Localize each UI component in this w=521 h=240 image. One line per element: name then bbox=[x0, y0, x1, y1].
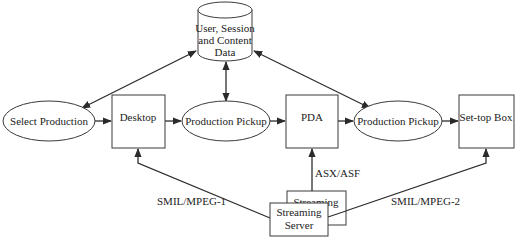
node-pda: PDA bbox=[286, 95, 338, 148]
database-label-line-1: User, Session bbox=[195, 22, 255, 34]
node-settop-box: Set-top Box bbox=[459, 95, 514, 148]
select-production-label: Select Production bbox=[10, 115, 88, 127]
edge-label-smil-mpeg-1: SMIL/MPEG-1 bbox=[157, 195, 226, 207]
pda-label: PDA bbox=[301, 111, 323, 123]
node-production-pickup-1: Production Pickup bbox=[182, 101, 270, 141]
node-select-production: Select Production bbox=[3, 101, 95, 141]
edge-server-to-desktop bbox=[138, 149, 270, 218]
node-production-pickup-2: Production Pickup bbox=[354, 101, 442, 141]
streaming-server-label-line-2: Server bbox=[285, 219, 314, 231]
settop-box-label: Set-top Box bbox=[460, 111, 513, 123]
node-desktop: Desktop bbox=[112, 95, 165, 148]
database-cylinder: User, Session and Content Data bbox=[195, 2, 255, 61]
node-streaming-server-front: Streaming Server bbox=[270, 203, 328, 236]
database-label-line-2: and Content bbox=[198, 34, 251, 46]
desktop-label: Desktop bbox=[120, 111, 157, 123]
edge-label-smil-mpeg-2: SMIL/MPEG-2 bbox=[391, 195, 460, 207]
production-pickup-1-label: Production Pickup bbox=[185, 115, 267, 127]
production-pickup-2-label: Production Pickup bbox=[357, 115, 439, 127]
edge-label-asx-asf: ASX/ASF bbox=[315, 167, 360, 179]
streaming-architecture-diagram: User, Session and Content Data Select Pr… bbox=[0, 0, 521, 240]
database-label-line-3: Data bbox=[215, 46, 236, 58]
streaming-server-label-line-1: Streaming bbox=[276, 206, 322, 218]
